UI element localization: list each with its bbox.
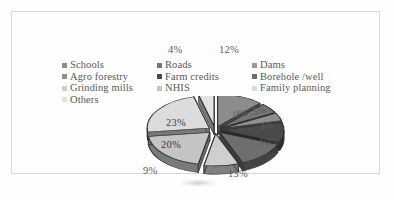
legend-item-roads[interactable]: Roads — [157, 59, 252, 71]
pie-chart-figure: Schools Roads Dams Agro forestry Farm cr… — [0, 0, 394, 200]
legend-item-farm-credits[interactable]: Farm credits — [157, 71, 252, 83]
legend-swatch-icon — [157, 63, 162, 68]
legend-swatch-icon — [252, 86, 257, 91]
legend-label: Agro forestry — [70, 71, 128, 83]
legend-swatch-icon — [252, 63, 257, 68]
pct-label-borehole-well: 13% — [228, 168, 248, 179]
legend-label: Dams — [260, 59, 285, 71]
legend-swatch-icon — [252, 74, 257, 79]
legend-label: Family planning — [260, 82, 331, 94]
legend-label: Others — [70, 94, 99, 106]
legend-item-family-planning[interactable]: Family planning — [252, 82, 342, 94]
legend-label: Grinding mills — [70, 82, 133, 94]
legend-label: NHIS — [165, 82, 190, 94]
legend-row: Grinding mills NHIS Family planning — [62, 82, 342, 94]
pct-label-grinding-mills: 9% — [143, 165, 157, 176]
legend-swatch-icon — [62, 74, 67, 79]
legend-row: Schools Roads Dams — [62, 59, 342, 71]
legend-label: Schools — [70, 59, 104, 71]
legend-swatch-icon — [62, 63, 67, 68]
legend-item-schools[interactable]: Schools — [62, 59, 157, 71]
legend-item-dams[interactable]: Dams — [252, 59, 342, 71]
legend-item-borehole-well[interactable]: Borehole /well — [252, 71, 342, 83]
legend-label: Borehole /well — [260, 71, 324, 83]
legend-swatch-icon — [157, 86, 162, 91]
legend-swatch-icon — [157, 74, 162, 79]
legend-label: Roads — [165, 59, 192, 71]
pct-label-farm-credits: 10% — [259, 136, 279, 147]
legend-swatch-icon — [62, 86, 67, 91]
pct-label-family-planning: 23% — [166, 117, 186, 128]
legend-item-nhis[interactable]: NHIS — [157, 82, 252, 94]
legend-row: Agro forestry Farm credits Borehole /wel… — [62, 71, 342, 83]
legend-item-grinding-mills[interactable]: Grinding mills — [62, 82, 157, 94]
pct-label-nhis: 20% — [161, 139, 181, 150]
scan-artifact — [180, 181, 216, 185]
pct-label-schools: 12% — [219, 44, 239, 55]
legend-swatch-icon — [62, 97, 67, 102]
legend-label: Farm credits — [165, 71, 219, 83]
pct-label-others: 4% — [168, 44, 182, 55]
legend-item-agro-forestry[interactable]: Agro forestry — [62, 71, 157, 83]
